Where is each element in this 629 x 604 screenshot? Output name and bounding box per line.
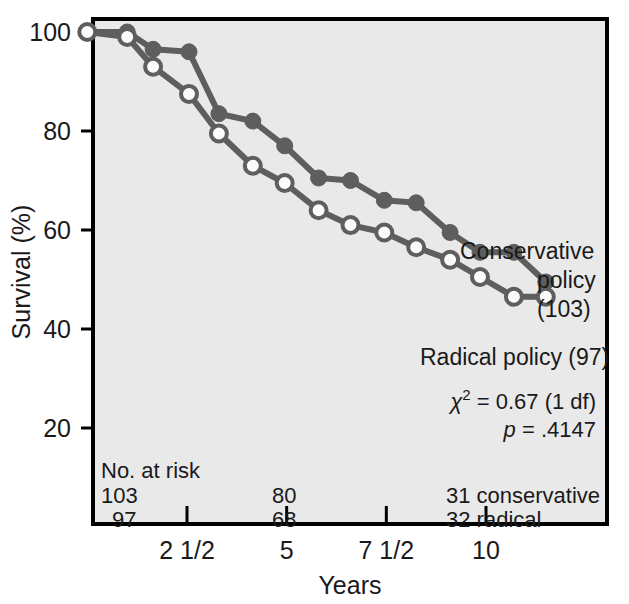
data-point [408, 239, 424, 255]
data-point [79, 24, 95, 40]
data-point [277, 138, 293, 154]
conservative-policy-label-line3: (103) [537, 296, 591, 322]
chi-square-statistic: χ2 = 0.67 (1 df) [448, 386, 596, 414]
at-risk-row-1-mid: 68 [272, 507, 296, 532]
p-symbol: p [503, 417, 516, 442]
at-risk-row-0-start: 103 [101, 483, 138, 508]
chi-value: = 0.67 (1 df) [471, 389, 596, 414]
x-tick-label-2-1-2: 2 1/2 [159, 536, 215, 564]
data-point [277, 175, 293, 191]
chi-symbol: χ [448, 389, 463, 414]
data-point [311, 202, 327, 218]
x-tick-label-7-1-2: 7 1/2 [359, 536, 415, 564]
data-point [145, 59, 161, 75]
data-point [145, 41, 161, 57]
at-risk-row-0-mid: 80 [272, 483, 296, 508]
data-point [376, 192, 392, 208]
data-point [408, 195, 424, 211]
y-tick-label-60: 60 [43, 216, 71, 244]
data-point [181, 44, 197, 60]
p-value: = .4147 [516, 417, 596, 442]
data-point [211, 126, 227, 142]
at-risk-row-0-end: 31 conservative [446, 483, 600, 508]
data-point [211, 106, 227, 122]
conservative-policy-label-line1: Conservative [460, 238, 594, 264]
data-point [119, 29, 135, 45]
y-axis-title: Survival (%) [7, 205, 35, 340]
y-tick-label-40: 40 [43, 315, 71, 343]
conservative-policy-label-line2: policy [537, 267, 596, 293]
y-tick-label-20: 20 [43, 414, 71, 442]
at-risk-heading: No. at risk [101, 458, 201, 483]
x-axis-title: Years [318, 571, 381, 599]
p-value-statistic: p = .4147 [503, 417, 596, 442]
data-point [442, 252, 458, 268]
y-tick-label-80: 80 [43, 117, 71, 145]
survival-chart-figure: 10080604020 2 1/257 1/210 Survival (%) Y… [0, 0, 629, 604]
data-point [442, 225, 458, 241]
y-axis-ticks: 10080604020 [29, 18, 95, 442]
data-point [245, 158, 261, 174]
data-point [506, 289, 522, 305]
at-risk-row-1-end: 32 radical [446, 507, 541, 532]
data-point [343, 217, 359, 233]
plot-area-background [93, 19, 607, 524]
chi-exponent: 2 [462, 386, 470, 403]
data-point [245, 113, 261, 129]
y-tick-label-100: 100 [29, 18, 71, 46]
data-point [311, 170, 327, 186]
data-point [472, 269, 488, 285]
x-tick-label-5: 5 [280, 536, 294, 564]
radical-policy-label: Radical policy (97) [420, 344, 609, 370]
at-risk-row-1-start: 97 [112, 507, 136, 532]
chart-canvas: 10080604020 2 1/257 1/210 Survival (%) Y… [0, 0, 629, 604]
x-tick-label-10: 10 [472, 536, 500, 564]
data-point [343, 173, 359, 189]
data-point [181, 86, 197, 102]
data-point [376, 225, 392, 241]
